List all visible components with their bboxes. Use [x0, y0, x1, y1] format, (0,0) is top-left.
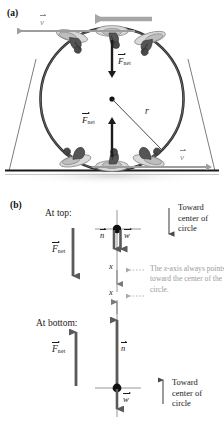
- annotation-line1-post: -axis always: [167, 264, 205, 273]
- x-axis-label-top: x: [109, 262, 113, 272]
- annotation-line1-pre: The: [150, 264, 164, 273]
- weight-label-bottom: w: [123, 395, 129, 405]
- fnet-label-bottom: Fnet: [82, 115, 95, 125]
- panel-b: (b): [0, 192, 224, 433]
- w-symbol-bottom: w: [123, 395, 129, 405]
- panel-a: (a): [0, 0, 224, 192]
- fnet-symbol-bottom-fbd: F: [52, 344, 58, 355]
- velocity-top-symbol: v: [40, 17, 44, 27]
- normal-force-label-bottom: n: [121, 344, 125, 354]
- at-bottom-heading: At bottom:: [36, 318, 77, 329]
- fnet-bottom-symbol: F: [82, 115, 88, 125]
- x-axis-label-note: x: [109, 288, 113, 298]
- w-symbol-top: w: [124, 231, 130, 241]
- radius-label: r: [145, 106, 149, 117]
- toward-center-line3-bottom: circle: [172, 398, 202, 409]
- fnet-label-top-fbd: Fnet: [52, 244, 66, 255]
- toward-center-line2-top: center of: [178, 213, 208, 224]
- n-symbol-bottom: n: [121, 344, 125, 354]
- free-body-top: [73, 210, 141, 292]
- free-body-bottom: [76, 300, 141, 417]
- toward-center-text-bottom: Toward center of circle: [172, 377, 202, 409]
- velocity-bottom-symbol: v: [180, 152, 184, 162]
- fnet-label-bottom-fbd: Fnet: [52, 344, 66, 355]
- fnet-symbol-top-fbd: F: [52, 244, 58, 255]
- fnet-bottom-subscript: net: [88, 119, 95, 125]
- velocity-label-top: v: [40, 17, 44, 27]
- velocity-label-bottom: v: [180, 152, 184, 162]
- toward-center-line2-bottom: center of: [172, 388, 202, 399]
- fnet-subscript-top-fbd: net: [58, 248, 66, 254]
- fnet-subscript-bottom-fbd: net: [58, 348, 66, 354]
- radius-line: [112, 99, 162, 150]
- fnet-top-subscript: net: [124, 60, 131, 66]
- fnet-label-top: Fnet: [118, 56, 131, 66]
- physics-figure: (a): [0, 0, 224, 433]
- panel-a-illustration: [0, 0, 224, 192]
- normal-force-label-top: n: [100, 231, 104, 241]
- at-top-heading: At top:: [45, 208, 72, 219]
- fnet-top-symbol: F: [118, 56, 124, 66]
- toward-center-line1-top: Toward: [178, 202, 208, 213]
- n-symbol-top: n: [100, 231, 104, 241]
- toward-center-text-top: Toward center of circle: [178, 202, 208, 234]
- x-axis-annotation: The x-axis always points toward the cent…: [150, 264, 224, 295]
- weight-label-top: w: [124, 231, 130, 241]
- toward-center-line1-bottom: Toward: [172, 377, 202, 388]
- toward-center-line3-top: circle: [178, 223, 208, 234]
- annotation-callouts: [126, 270, 144, 296]
